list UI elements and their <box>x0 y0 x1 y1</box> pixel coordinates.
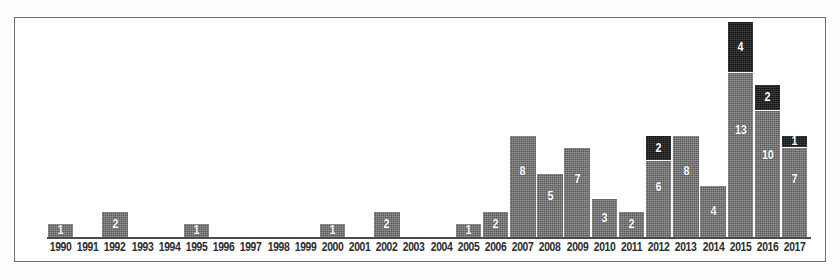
bar-segment-black-2016: 2 <box>755 85 781 110</box>
bar-slot: 1 <box>319 22 346 237</box>
bar-2012: 26 <box>646 136 672 237</box>
bar-slot: 2 <box>101 22 128 237</box>
bar-2005: 1 <box>456 224 482 237</box>
bar-slot: 17 <box>781 22 808 237</box>
x-tick-2013: 2013 <box>675 240 698 255</box>
x-tick-2010: 2010 <box>593 240 616 255</box>
bar-value-label: 4 <box>737 41 743 54</box>
x-tick-2012: 2012 <box>647 240 670 255</box>
bar-slot <box>237 22 264 237</box>
x-axis-line <box>47 237 811 239</box>
x-axis-tick-labels: 1990199119921993199419951996199719981999… <box>47 240 809 260</box>
x-tick-1992: 1992 <box>104 240 127 255</box>
bar-value-label: 1 <box>465 224 471 237</box>
bar-value-label: 8 <box>520 165 526 178</box>
bar-slot: 8 <box>672 22 699 237</box>
bar-value-label: 1 <box>330 224 336 237</box>
bar-value-label: 13 <box>734 124 746 137</box>
bar-2006: 2 <box>483 212 509 237</box>
bar-slot: 1 <box>455 22 482 237</box>
bar-slot: 2 <box>373 22 400 237</box>
bar-slot: 3 <box>591 22 618 237</box>
bar-segment-black-2015: 4 <box>728 22 754 73</box>
bar-1992: 2 <box>102 212 128 237</box>
bar-2007: 8 <box>510 136 536 237</box>
bar-segment-grey-1990: 1 <box>48 224 74 237</box>
bar-slot: 210 <box>754 22 781 237</box>
x-tick-1997: 1997 <box>240 240 263 255</box>
x-tick-2002: 2002 <box>376 240 399 255</box>
bar-1995: 1 <box>184 224 210 237</box>
bar-segment-grey-2006: 2 <box>483 212 509 237</box>
bar-value-label: 1 <box>58 224 64 237</box>
bar-slot <box>265 22 292 237</box>
bar-2009: 7 <box>564 148 590 237</box>
x-tick-2016: 2016 <box>756 240 779 255</box>
bar-value-label: 7 <box>792 173 798 186</box>
bar-segment-grey-2014: 4 <box>700 186 726 237</box>
x-tick-1993: 1993 <box>131 240 154 255</box>
bar-slot <box>292 22 319 237</box>
bar-slot <box>156 22 183 237</box>
x-tick-1998: 1998 <box>267 240 290 255</box>
bar-slot: 2 <box>482 22 509 237</box>
bar-slot: 7 <box>564 22 591 237</box>
bar-2008: 5 <box>537 174 563 237</box>
bar-2015: 413 <box>728 22 754 237</box>
bar-segment-grey-2007: 8 <box>510 136 536 237</box>
bar-segment-grey-1995: 1 <box>184 224 210 237</box>
x-tick-2009: 2009 <box>566 240 589 255</box>
bar-segment-grey-2002: 2 <box>374 212 400 237</box>
bar-2011: 2 <box>619 212 645 237</box>
bar-segment-grey-2011: 2 <box>619 212 645 237</box>
bar-segment-black-2012: 2 <box>646 136 672 161</box>
x-tick-2000: 2000 <box>321 240 344 255</box>
bar-slot <box>400 22 427 237</box>
bar-slot <box>210 22 237 237</box>
x-tick-1991: 1991 <box>76 240 99 255</box>
bar-slot: 1 <box>183 22 210 237</box>
bar-slot: 413 <box>727 22 754 237</box>
x-tick-2017: 2017 <box>783 240 806 255</box>
x-tick-2007: 2007 <box>511 240 534 255</box>
bar-value-label: 2 <box>384 218 390 231</box>
x-tick-1995: 1995 <box>185 240 208 255</box>
x-tick-1999: 1999 <box>294 240 317 255</box>
bar-segment-grey-2005: 1 <box>456 224 482 237</box>
bar-slot: 2 <box>618 22 645 237</box>
bar-segment-grey-2017: 7 <box>782 148 808 237</box>
x-tick-2014: 2014 <box>702 240 725 255</box>
bar-segment-grey-2012: 6 <box>646 161 672 237</box>
bar-2017: 17 <box>782 136 808 237</box>
bar-value-label: 4 <box>710 205 716 218</box>
chart-frame: 121121285732268441321017 199019911992199… <box>14 17 826 262</box>
x-tick-2004: 2004 <box>430 240 453 255</box>
bar-value-label: 2 <box>112 218 118 231</box>
bar-1990: 1 <box>48 224 74 237</box>
x-tick-1994: 1994 <box>158 240 181 255</box>
bar-slot: 1 <box>47 22 74 237</box>
bar-2010: 3 <box>592 199 618 237</box>
bar-slot: 5 <box>536 22 563 237</box>
x-tick-1990: 1990 <box>49 240 72 255</box>
bar-slot <box>346 22 373 237</box>
bar-value-label: 1 <box>792 136 798 148</box>
bar-slot <box>129 22 156 237</box>
bar-2013: 8 <box>673 136 699 237</box>
bar-2000: 1 <box>320 224 346 237</box>
bar-slot: 4 <box>700 22 727 237</box>
bar-value-label: 2 <box>629 218 635 231</box>
x-tick-2005: 2005 <box>457 240 480 255</box>
x-tick-2006: 2006 <box>484 240 507 255</box>
bar-slot: 8 <box>509 22 536 237</box>
x-tick-2003: 2003 <box>403 240 426 255</box>
bar-segment-grey-2010: 3 <box>592 199 618 237</box>
bar-value-label: 10 <box>762 149 774 162</box>
bar-value-label: 8 <box>683 165 689 178</box>
bar-group: 121121285732268441321017 <box>47 22 809 237</box>
bar-value-label: 1 <box>194 224 200 237</box>
bar-segment-grey-2015: 13 <box>728 73 754 237</box>
bar-slot: 26 <box>645 22 672 237</box>
bar-value-label: 6 <box>656 181 662 194</box>
bar-segment-grey-2000: 1 <box>320 224 346 237</box>
